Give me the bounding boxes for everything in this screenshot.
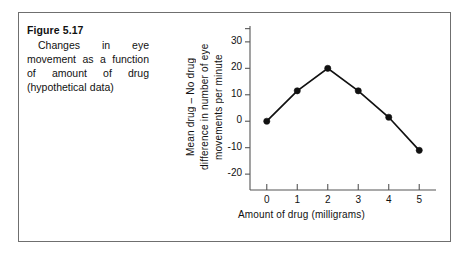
y-tick-label: 10 bbox=[216, 88, 242, 99]
y-tick-label: 0 bbox=[216, 114, 242, 125]
chart-axes bbox=[245, 26, 436, 190]
chart-svg bbox=[180, 18, 442, 233]
y-tick-label: -10 bbox=[216, 141, 242, 152]
figure-caption-body: Changes in eye movement as a function of… bbox=[27, 38, 149, 95]
x-tick-label: 4 bbox=[379, 194, 399, 205]
x-tick-label: 3 bbox=[348, 194, 368, 205]
x-tick-label: 0 bbox=[257, 194, 277, 205]
x-axis-title: Amount of drug (milligrams) bbox=[238, 209, 365, 220]
x-tick-label: 5 bbox=[409, 194, 429, 205]
y-tick-label: 30 bbox=[216, 35, 242, 46]
chart-series-line bbox=[267, 68, 419, 150]
chart-plot-area: Mean drug – No drug difference in number… bbox=[180, 18, 442, 233]
figure-caption: Figure 5.17 Changes in eye movement as a… bbox=[27, 23, 149, 95]
chart-data-markers bbox=[264, 65, 423, 153]
figure-container: Figure 5.17 Changes in eye movement as a… bbox=[0, 0, 470, 259]
figure-caption-title: Figure 5.17 bbox=[27, 23, 149, 37]
x-tick-label: 2 bbox=[318, 194, 338, 205]
x-tick-label: 1 bbox=[287, 194, 307, 205]
y-tick-label: -20 bbox=[216, 167, 242, 178]
y-tick-label: 20 bbox=[216, 61, 242, 72]
